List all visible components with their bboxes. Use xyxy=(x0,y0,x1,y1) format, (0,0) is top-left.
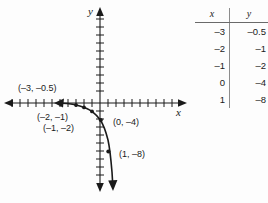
table-cell-x: 0 xyxy=(195,74,230,91)
x-axis-label: x xyxy=(176,107,181,118)
data-point-x-neg2 xyxy=(82,106,86,110)
table-cell-x: –2 xyxy=(195,40,230,57)
value-table-panel: x y –3 –0.5 –2 –1 –1 xyxy=(190,0,268,203)
table-row: –2 –1 xyxy=(195,40,268,57)
data-point-x-0 xyxy=(99,118,103,122)
table-row: –3 –0.5 xyxy=(195,23,268,41)
point-label-neg1: (–1, –2) xyxy=(43,124,74,133)
table-row: –1 –2 xyxy=(195,57,268,74)
table-cell-y: –8 xyxy=(230,91,268,108)
table-header-y: y xyxy=(230,8,268,23)
table-cell-x: 1 xyxy=(195,91,230,108)
figure-root: y x (–3, –0.5) (–2, –1) (–1, –2) (0, –4)… xyxy=(0,0,268,203)
point-label-one: (1, –8) xyxy=(119,150,145,159)
table-cell-y: –1 xyxy=(230,40,268,57)
y-axis-arrow-up xyxy=(96,7,104,16)
x-axis-ticks xyxy=(12,99,172,107)
value-table: x y –3 –0.5 –2 –1 –1 xyxy=(195,8,268,108)
point-label-neg2: (–2, –1) xyxy=(37,113,68,122)
data-point-x-neg3 xyxy=(74,103,78,107)
table-cell-y: –2 xyxy=(230,57,268,74)
table-cell-y: –0.5 xyxy=(230,23,268,41)
exponential-curve xyxy=(62,103,113,182)
data-point-x-neg1 xyxy=(90,110,94,114)
table-row: 1 –8 xyxy=(195,91,268,108)
graph-svg xyxy=(0,0,190,203)
curve-arrow-left xyxy=(54,99,64,108)
y-axis-arrow-down xyxy=(96,183,104,192)
coordinate-graph: y x (–3, –0.5) (–2, –1) (–1, –2) (0, –4)… xyxy=(0,0,190,203)
table-header-x: x xyxy=(195,8,230,23)
table-cell-y: –4 xyxy=(230,74,268,91)
table-header-row: x y xyxy=(195,8,268,23)
y-axis-label: y xyxy=(88,6,93,17)
point-label-zero: (0, –4) xyxy=(113,118,139,127)
table-cell-x: –1 xyxy=(195,57,230,74)
table-row: 0 –4 xyxy=(195,74,268,91)
point-label-neg3: (–3, –0.5) xyxy=(18,84,57,93)
curve-arrow-down xyxy=(108,180,117,191)
data-point-x-1 xyxy=(106,149,110,153)
table-cell-x: –3 xyxy=(195,23,230,41)
